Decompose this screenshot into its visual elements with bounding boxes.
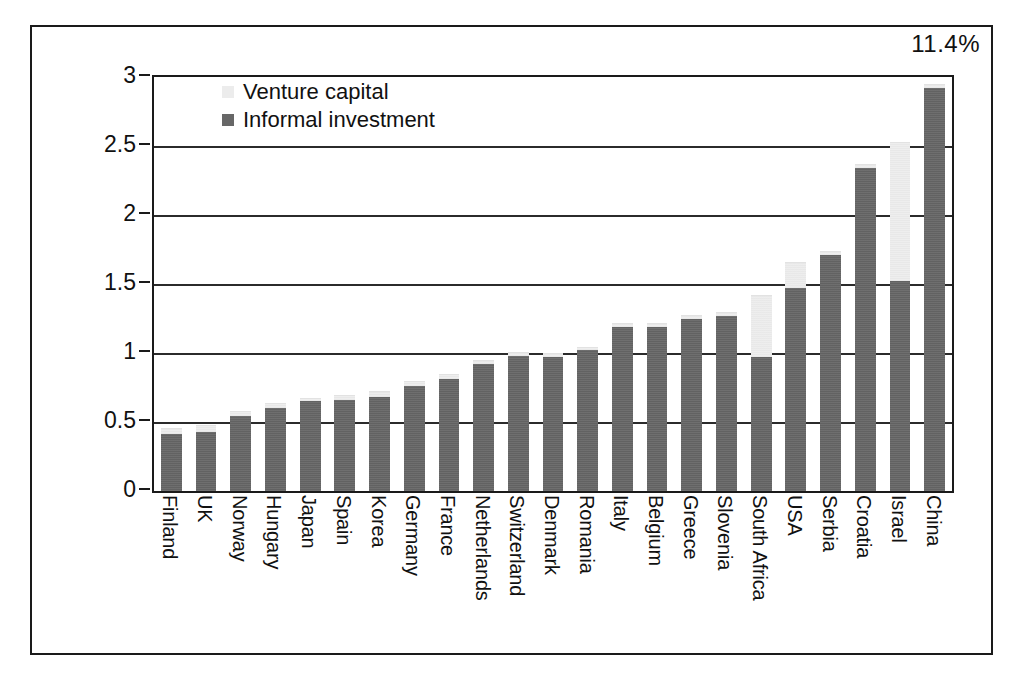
bar-segment-informal-investment[interactable] (785, 287, 806, 491)
x-tick-label-text: Israel (886, 495, 909, 543)
bar-segment-informal-investment[interactable] (855, 167, 876, 491)
bar-segment-informal-investment[interactable] (577, 349, 598, 491)
bar-segment-venture-capital[interactable] (300, 398, 321, 402)
legend-item-label: Venture capital (243, 79, 389, 105)
bar-group[interactable] (334, 77, 355, 491)
x-tick-label-text: Korea (366, 495, 389, 547)
bar-group[interactable] (543, 77, 564, 491)
bar-segment-informal-investment[interactable] (647, 326, 668, 491)
bar-segment-informal-investment[interactable] (681, 318, 702, 492)
x-tick-label: Denmark (534, 495, 569, 655)
x-tick-label: Italy (603, 495, 638, 655)
legend-item[interactable]: Informal investment (222, 106, 522, 134)
bar-group[interactable] (716, 77, 737, 491)
bar-segment-informal-investment[interactable] (230, 415, 251, 491)
x-tick-label-text: Denmark (539, 495, 562, 575)
y-tick-label: 3 (123, 62, 136, 89)
bar-segment-venture-capital[interactable] (473, 360, 494, 364)
bar-group[interactable] (577, 77, 598, 491)
bar-group[interactable] (508, 77, 529, 491)
bar-group[interactable] (751, 77, 772, 491)
legend-item[interactable]: Venture capital (222, 78, 522, 106)
bar-group[interactable] (196, 77, 217, 491)
bar-segment-informal-investment[interactable] (404, 385, 425, 491)
x-tick-label: Serbia (811, 495, 846, 655)
bar-segment-venture-capital[interactable] (924, 84, 945, 88)
bar-segment-informal-investment[interactable] (265, 407, 286, 491)
x-tick-label-text: Norway (227, 495, 250, 562)
bar-segment-venture-capital[interactable] (716, 312, 737, 316)
y-tick-mark (139, 419, 150, 421)
x-tick-label: Norway (221, 495, 256, 655)
chart-figure: 11.4% Informal investment and Venture ca… (0, 0, 1014, 681)
bar-group[interactable] (785, 77, 806, 491)
bar-group[interactable] (612, 77, 633, 491)
x-tick-label-text: Slovenia (713, 495, 736, 570)
bar-segment-informal-investment[interactable] (890, 280, 911, 491)
bar-group[interactable] (265, 77, 286, 491)
bar-segment-venture-capital[interactable] (161, 428, 182, 435)
x-tick-label: Croatia (846, 495, 881, 655)
x-tick-label: Spain (325, 495, 360, 655)
bar-segment-venture-capital[interactable] (404, 381, 425, 386)
bar-segment-informal-investment[interactable] (751, 356, 772, 491)
bar-group[interactable] (820, 77, 841, 491)
y-tick-mark (139, 350, 150, 352)
bar-segment-informal-investment[interactable] (473, 363, 494, 491)
bar-segment-venture-capital[interactable] (196, 425, 217, 432)
x-tick-label-text: China (921, 495, 944, 546)
bar-segment-venture-capital[interactable] (855, 164, 876, 168)
bar-segment-venture-capital[interactable] (820, 251, 841, 255)
bar-group[interactable] (924, 77, 945, 491)
bar-segment-informal-investment[interactable] (334, 399, 355, 491)
bar-segment-informal-investment[interactable] (716, 315, 737, 491)
y-tick-label: 1 (123, 338, 136, 365)
bar-group[interactable] (855, 77, 876, 491)
x-tick-label: Germany (395, 495, 430, 655)
bar-segment-venture-capital[interactable] (230, 411, 251, 416)
bar-segment-venture-capital[interactable] (369, 391, 390, 398)
x-tick-label-text: UK (193, 495, 216, 522)
bar-segment-venture-capital[interactable] (543, 353, 564, 357)
bar-group[interactable] (647, 77, 668, 491)
x-tick-label: Finland (152, 495, 187, 655)
bar-segment-venture-capital[interactable] (577, 347, 598, 351)
bar-segment-informal-investment[interactable] (924, 87, 945, 491)
x-tick-label-text: Belgium (644, 495, 667, 566)
bar-group[interactable] (681, 77, 702, 491)
bar-segment-venture-capital[interactable] (681, 315, 702, 319)
bar-series-group (154, 77, 952, 491)
bar-segment-informal-investment[interactable] (161, 433, 182, 491)
bar-group[interactable] (230, 77, 251, 491)
dark-square-icon (222, 114, 234, 126)
bar-group[interactable] (404, 77, 425, 491)
bar-segment-venture-capital[interactable] (334, 395, 355, 400)
x-tick-label-text: Hungary (262, 495, 285, 569)
bar-segment-venture-capital[interactable] (751, 295, 772, 357)
bar-segment-venture-capital[interactable] (439, 374, 460, 379)
x-tick-label-text: Italy (609, 495, 632, 531)
bar-segment-venture-capital[interactable] (265, 403, 286, 408)
bar-segment-informal-investment[interactable] (612, 326, 633, 491)
bar-group[interactable] (161, 77, 182, 491)
bar-group[interactable] (473, 77, 494, 491)
y-tick-mark (139, 212, 150, 214)
bar-segment-informal-investment[interactable] (543, 356, 564, 491)
bar-group[interactable] (300, 77, 321, 491)
bar-group[interactable] (890, 77, 911, 491)
bar-segment-informal-investment[interactable] (300, 400, 321, 491)
bar-segment-informal-investment[interactable] (369, 396, 390, 491)
bar-segment-informal-investment[interactable] (508, 355, 529, 491)
bar-group[interactable] (369, 77, 390, 491)
bar-segment-venture-capital[interactable] (785, 262, 806, 288)
bar-segment-informal-investment[interactable] (439, 378, 460, 491)
bar-segment-informal-investment[interactable] (196, 431, 217, 491)
y-axis-ticks: 00.511.522.53 (0, 75, 150, 489)
bar-segment-venture-capital[interactable] (508, 352, 529, 356)
bar-segment-venture-capital[interactable] (612, 323, 633, 327)
bar-segment-venture-capital[interactable] (890, 142, 911, 281)
bar-group[interactable] (439, 77, 460, 491)
bar-segment-venture-capital[interactable] (647, 323, 668, 327)
bar-segment-informal-investment[interactable] (820, 254, 841, 491)
x-tick-label-text: Germany (401, 495, 424, 576)
